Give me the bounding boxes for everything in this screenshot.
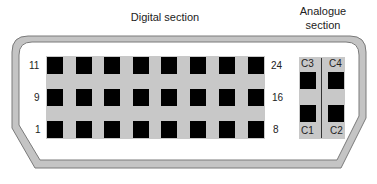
digital-pin: [104, 57, 120, 74]
digital-pin: [219, 89, 235, 106]
digital-pin: [190, 121, 206, 138]
digital-pin: [248, 57, 264, 74]
digital-pin: [76, 121, 92, 138]
analogue-divider: [321, 58, 322, 138]
digital-pin: [248, 89, 264, 106]
row-label-left: 1: [35, 124, 41, 136]
digital-pin: [248, 121, 264, 138]
digital-pin: [47, 121, 63, 138]
digital-pin: [47, 89, 63, 106]
analogue-label-c3: C3: [301, 58, 314, 70]
digital-pin: [133, 57, 149, 74]
analogue-label-c1: C1: [301, 125, 314, 137]
digital-pin: [104, 89, 120, 106]
analogue-label-c4: C4: [329, 58, 342, 70]
digital-pin: [133, 89, 149, 106]
digital-pin: [190, 57, 206, 74]
digital-pin: [161, 89, 177, 106]
row-label-left: 11: [29, 60, 39, 72]
digital-pin: [76, 57, 92, 74]
digital-pin: [104, 121, 120, 138]
digital-pin: [219, 121, 235, 138]
row-label-right: 8: [273, 124, 279, 136]
digital-pin: [47, 57, 63, 74]
analogue-pin-c2: [328, 105, 344, 122]
digital-pin: [161, 121, 177, 138]
analogue-label-c2: C2: [330, 125, 343, 137]
analogue-pin-c4: [328, 72, 344, 89]
analogue-pin-c1: [300, 105, 316, 122]
row-label-right: 24: [271, 60, 282, 72]
digital-pin: [219, 57, 235, 74]
row-label-right: 16: [272, 92, 283, 104]
digital-pin: [190, 89, 206, 106]
digital-pin: [133, 121, 149, 138]
digital-pin: [161, 57, 177, 74]
analogue-pin-c3: [300, 72, 316, 89]
digital-pin: [76, 89, 92, 106]
row-label-left: 9: [34, 92, 40, 104]
